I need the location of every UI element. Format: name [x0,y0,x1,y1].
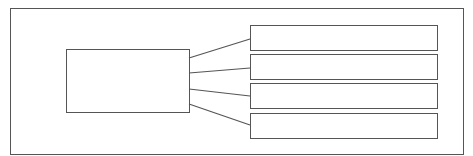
connector-line-2 [189,68,250,73]
target-box-1 [251,26,438,51]
target-box-4 [251,114,438,139]
source-box [67,50,190,113]
connector-line-1 [189,39,250,58]
diagram-canvas [0,0,473,156]
connector-line-4 [189,104,250,125]
target-box-2 [251,55,438,80]
connectors [189,39,250,125]
target-boxes [251,26,438,139]
connector-line-3 [189,89,250,96]
target-box-3 [251,84,438,109]
